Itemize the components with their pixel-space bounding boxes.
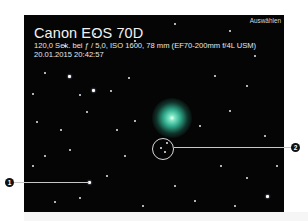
star — [60, 129, 62, 131]
star — [194, 200, 196, 202]
star — [116, 129, 118, 131]
star — [32, 165, 34, 167]
star — [214, 75, 216, 77]
callout-line-2 — [174, 147, 292, 149]
star — [69, 149, 71, 151]
star — [229, 110, 231, 112]
star — [246, 177, 248, 179]
star — [264, 135, 266, 137]
star — [276, 165, 278, 167]
comet — [152, 98, 192, 138]
callout-badge-2: 2 — [291, 143, 300, 152]
star — [174, 185, 176, 187]
page-margin — [24, 212, 308, 221]
callout-badge-1: 1 — [5, 178, 14, 187]
star — [68, 75, 71, 78]
star — [32, 93, 34, 95]
star — [92, 89, 95, 92]
star — [110, 90, 112, 92]
select-button[interactable]: Auswählen — [250, 17, 281, 24]
star — [36, 121, 38, 123]
star — [199, 125, 201, 127]
highlight-circle — [152, 138, 174, 160]
callout-line-1 — [14, 182, 89, 184]
star — [44, 155, 46, 157]
photo-info-overlay: Canon EOS 70D 120,0 Sek. bei ƒ / 5,0, IS… — [34, 25, 256, 59]
star — [266, 195, 269, 198]
star — [124, 155, 126, 157]
star — [79, 197, 81, 199]
star — [106, 175, 108, 177]
star — [86, 111, 88, 113]
star — [44, 72, 46, 74]
star — [134, 120, 136, 122]
star — [79, 94, 81, 96]
camera-model: Canon EOS 70D — [34, 25, 256, 41]
star — [234, 205, 236, 207]
exposure-info: 120,0 Sek. bei ƒ / 5,0, ISO 1600, 78 mm … — [34, 41, 256, 50]
star — [54, 201, 56, 203]
star — [128, 77, 130, 79]
star — [246, 85, 248, 87]
capture-datetime: 20.01.2015 20:42:57 — [34, 50, 256, 59]
star — [220, 165, 222, 167]
star — [142, 205, 144, 207]
